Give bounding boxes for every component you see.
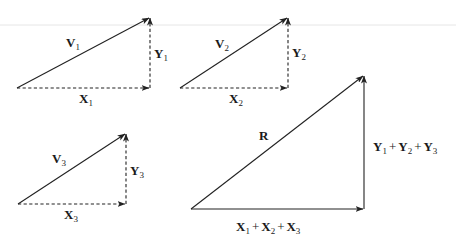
label-x-sum: X1+X2+X3 — [236, 219, 301, 236]
label-y3: Y3 — [130, 163, 144, 180]
label-x2: X2 — [229, 91, 243, 108]
label-v2: V2 — [215, 36, 229, 53]
label-v3: V3 — [52, 151, 66, 168]
vector-triangle-1: V1 Y1 X1 — [17, 18, 168, 108]
label-r: R — [259, 128, 269, 143]
label-y2: Y2 — [292, 45, 306, 62]
label-y1: Y1 — [154, 46, 168, 63]
vector-triangle-2: V2 Y2 X2 — [180, 18, 306, 108]
vector-triangle-3: V3 Y3 X3 — [18, 134, 144, 224]
vector-v2-arrow — [180, 18, 287, 88]
label-v1: V1 — [66, 35, 80, 52]
label-x3: X3 — [64, 207, 78, 224]
vector-v3-arrow — [18, 134, 125, 204]
label-x1: X1 — [79, 91, 93, 108]
label-y-sum: Y1+Y2+Y3 — [373, 139, 438, 156]
vector-addition-diagram: V1 Y1 X1 V2 Y2 X2 V3 Y3 X3 R Y1+Y2+Y3 X1… — [0, 0, 456, 244]
vector-v1-arrow — [17, 18, 149, 88]
resultant-r-arrow — [191, 76, 363, 209]
